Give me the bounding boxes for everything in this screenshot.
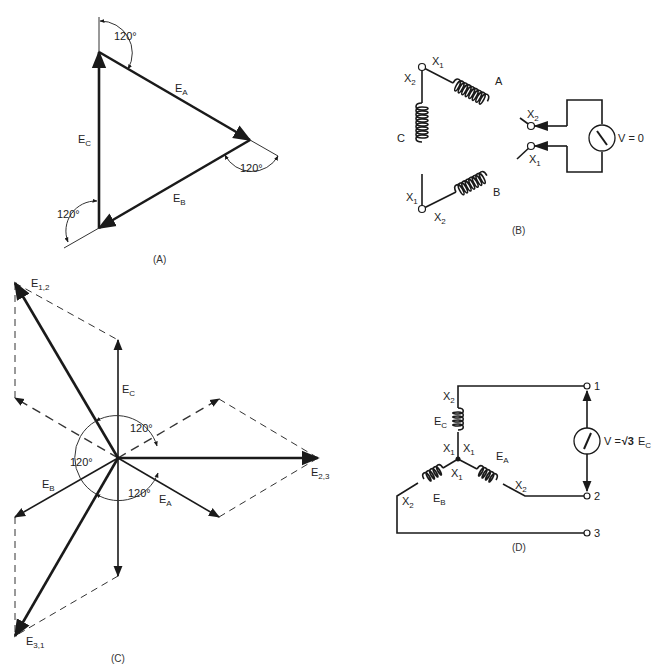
terminal-label: X2	[527, 108, 539, 123]
caption-b: (B)	[512, 225, 525, 236]
angle-label: 120°	[114, 30, 137, 42]
vector-ea	[99, 52, 250, 140]
angle-label: 120°	[130, 422, 153, 434]
figure-b-delta-polarity-test: V = 0 A B C X1 X2 X2 X1 X1 X2 (B)	[397, 55, 644, 236]
terminal-label: X2	[402, 495, 414, 510]
wire	[458, 459, 477, 469]
wire	[397, 483, 584, 533]
terminal-label: X1	[529, 153, 541, 168]
line-terminal-label: 2	[594, 490, 600, 502]
coil-c	[416, 103, 428, 142]
label-ea: EA	[175, 82, 188, 97]
coil-ec	[453, 408, 464, 430]
label-ea: EA	[159, 493, 172, 508]
coil-b	[453, 170, 490, 197]
label-eb: EB	[42, 478, 55, 493]
terminal-label: X1	[451, 467, 463, 482]
terminal-label: X2	[443, 390, 455, 405]
label-ec: EC	[78, 133, 91, 148]
line-terminal-label: 1	[594, 380, 600, 392]
coil-label-a: A	[495, 75, 503, 87]
angle-label: 120°	[128, 487, 151, 499]
label-ec: EC	[122, 383, 135, 398]
label-e12: E1,2	[31, 277, 50, 292]
line-terminal-3	[584, 530, 590, 536]
caption-a: (A)	[153, 254, 166, 265]
wire	[422, 192, 456, 209]
coil-ea	[474, 464, 498, 484]
line-terminal-2	[584, 493, 590, 499]
terminal	[528, 123, 535, 130]
vector-e12	[15, 283, 118, 458]
figure-c-phasor-star: 120° 120° 120° E1,2 E2,3 E3,1 EC EA EB (…	[15, 277, 330, 664]
terminal-label: X1	[443, 442, 455, 457]
coil-label-c: C	[397, 132, 405, 144]
coil-label-b: B	[493, 186, 500, 198]
diagram-canvas: 120° 120° 120° EA EB EC (A)	[0, 0, 657, 670]
terminal-label: X1	[463, 442, 475, 457]
terminal-label: X1	[432, 55, 444, 70]
coil-a	[450, 78, 490, 107]
terminal	[419, 206, 426, 213]
caption-c: (C)	[111, 653, 125, 664]
label-eb: EB	[173, 192, 186, 207]
angle-label: 120°	[70, 456, 93, 468]
vector-e31	[15, 458, 118, 636]
label-e31: E3,1	[26, 635, 45, 650]
meter-reading-b: V = 0	[618, 132, 644, 144]
vector-eb	[15, 458, 118, 517]
terminal	[419, 64, 426, 71]
wire	[422, 67, 453, 83]
terminal-label: X2	[404, 72, 416, 87]
vector-minus-ea	[15, 398, 118, 458]
construction-line	[15, 576, 118, 636]
caption-d: (D)	[512, 542, 526, 553]
terminal	[528, 143, 535, 150]
terminal-label: X2	[434, 211, 446, 226]
meter-reading-d: V =√3EC	[604, 435, 651, 450]
angle-label: 120°	[240, 162, 263, 174]
construction-line	[219, 399, 318, 458]
extension-line	[64, 228, 99, 248]
line-terminal-1	[584, 383, 590, 389]
angle-label: 120°	[57, 208, 80, 220]
figure-d-wye-voltage-test: 1 2 3 V =√3EC EC EA EB X2 X1 X1 X1 X2 X2…	[397, 380, 651, 553]
label-e23: E2,3	[311, 466, 330, 481]
coil-label-eb: EB	[433, 492, 446, 507]
coil-label-ec: EC	[434, 415, 447, 430]
line-terminal-label: 3	[594, 527, 600, 539]
vector-eb	[99, 140, 250, 228]
coil-eb	[421, 463, 445, 483]
wire	[458, 386, 584, 408]
figure-a-phasor-triangle: 120° 120° 120° EA EB EC (A)	[57, 17, 278, 265]
meter-lead	[567, 100, 602, 126]
extension-line	[250, 140, 278, 156]
construction-line	[219, 458, 318, 517]
coil-label-ea: EA	[496, 450, 509, 465]
terminal-label: X1	[406, 191, 418, 206]
